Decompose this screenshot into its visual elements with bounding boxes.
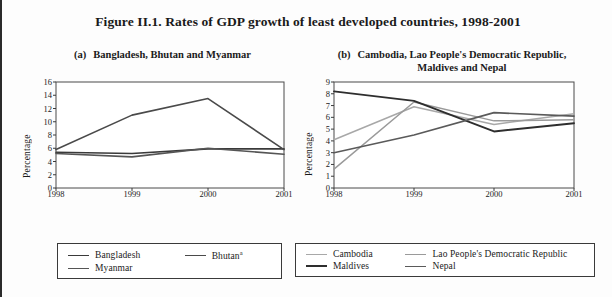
chart-b-plot: [302, 76, 582, 204]
legend-item[interactable]: Cambodia: [306, 249, 391, 259]
x-tick-label: 1999: [406, 190, 423, 199]
panel-a-heading: (a) Bangladesh, Bhutan and Myanmar: [20, 48, 305, 74]
legend-swatch-line-icon: [68, 268, 89, 269]
chart-b: Percentage 0123456789 1998199920002001: [302, 76, 602, 204]
legend-item-label: Myanmar: [95, 263, 133, 273]
y-tick-label: 2: [326, 160, 330, 169]
y-tick-label: 5: [326, 125, 330, 134]
x-tick-label: 2001: [566, 190, 583, 199]
y-tick-label: 8: [48, 131, 52, 140]
legend-footnote-marker: a: [240, 249, 243, 256]
panel-b-title-line1: Cambodia, Lao People's Democratic Republ…: [358, 49, 567, 60]
y-tick-label: 8: [326, 90, 330, 99]
panel-b: (b) Cambodia, Lao People's Democratic Re…: [302, 48, 602, 204]
y-tick-label: 7: [326, 101, 330, 110]
y-tick-label: 14: [44, 91, 53, 100]
chart-a: Percentage 0246810121416 199819992000200…: [20, 76, 305, 204]
chart-b-y-ticks: 0123456789: [316, 76, 330, 188]
x-tick-label: 2000: [200, 190, 217, 199]
x-tick-label: 1998: [326, 190, 343, 199]
legend-swatch-line-icon: [68, 255, 89, 256]
chart-b-ylabel: Percentage: [304, 84, 314, 176]
chart-a-y-ticks: 0246810121416: [34, 76, 52, 188]
y-tick-label: 12: [44, 104, 53, 113]
panel-b-heading: (b) Cambodia, Lao People's Democratic Re…: [302, 48, 602, 74]
legend-item-label: Lao People's Democratic Republic: [432, 249, 567, 259]
x-tick-label: 1998: [48, 190, 65, 199]
y-tick-label: 4: [326, 137, 330, 146]
chart-a-plot: [20, 76, 286, 204]
y-tick-label: 1: [326, 172, 330, 181]
legend-swatch-line-icon: [405, 266, 426, 267]
legend-item[interactable]: Lao People's Democratic Republic: [405, 249, 586, 259]
y-tick-label: 6: [326, 113, 330, 122]
panel-b-title: Cambodia, Lao People's Democratic Republ…: [358, 48, 567, 74]
y-tick-label: 6: [48, 144, 52, 153]
legend-swatch-line-icon: [306, 265, 327, 267]
figure-title: Figure II.1. Rates of GDP growth of leas…: [2, 14, 612, 30]
legend-item-label: Bangladesh: [95, 250, 140, 260]
legend-swatch-line-icon: [405, 254, 426, 255]
legend-item-label: Nepal: [432, 261, 455, 271]
panel-b-title-line2: Maldives and Nepal: [417, 62, 506, 73]
figure-page: Figure II.1. Rates of GDP growth of leas…: [0, 0, 612, 297]
y-tick-label: 16: [44, 78, 53, 87]
y-tick-label: 10: [44, 118, 53, 127]
legend-item-label: Cambodia: [333, 249, 373, 259]
panel-a: (a) Bangladesh, Bhutan and Myanmar Perce…: [20, 48, 305, 204]
x-tick-label: 1999: [124, 190, 141, 199]
legend-item[interactable]: Bhutana: [185, 249, 273, 261]
legend-item-label: Bhutana: [212, 249, 243, 261]
panel-a-tag: (a): [74, 48, 86, 61]
legend-swatch-line-icon: [306, 254, 327, 255]
legend-a: BangladeshBhutanaMyanmar: [57, 243, 282, 279]
y-tick-label: 4: [48, 157, 52, 166]
legend-item[interactable]: Nepal: [405, 261, 586, 271]
legend-item[interactable]: Maldives: [306, 261, 391, 271]
x-tick-label: 2000: [486, 190, 503, 199]
legend-swatch-line-icon: [185, 255, 206, 256]
panel-b-tag: (b): [338, 48, 351, 61]
y-tick-label: 3: [326, 148, 330, 157]
legend-item[interactable]: Myanmar: [68, 263, 171, 273]
y-tick-label: 2: [48, 171, 52, 180]
legend-item-label: Maldives: [333, 261, 369, 271]
x-tick-label: 2001: [276, 190, 293, 199]
chart-b-x-ticks: 1998199920002001: [334, 190, 574, 202]
panel-a-title: Bangladesh, Bhutan and Myanmar: [93, 48, 251, 61]
chart-a-ylabel: Percentage: [22, 86, 32, 178]
y-tick-label: 9: [326, 78, 330, 87]
legend-b: CambodiaLao People's Democratic Republic…: [295, 243, 595, 277]
chart-a-x-ticks: 1998199920002001: [56, 190, 284, 202]
legend-item[interactable]: Bangladesh: [68, 250, 171, 260]
